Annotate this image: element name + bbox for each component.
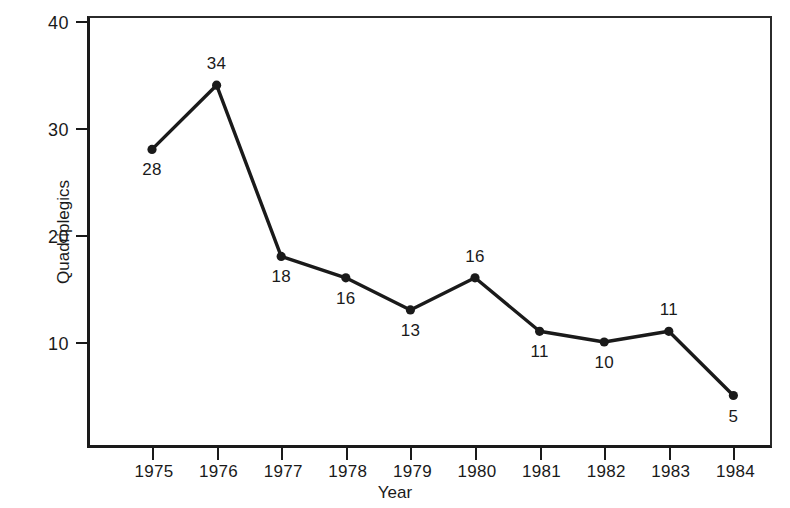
x-tick-1981: 1981 xyxy=(540,448,542,460)
point-value-label-1979: 13 xyxy=(401,321,421,341)
point-value-label-1977: 18 xyxy=(271,267,291,287)
x-tick-1980: 1980 xyxy=(475,448,477,460)
y-axis-title: Quadriplegics xyxy=(54,180,74,284)
x-tick-1978: 1978 xyxy=(346,448,348,460)
x-tick-1983: 1983 xyxy=(669,448,671,460)
x-tick-label: 1983 xyxy=(651,462,690,482)
y-tick-30: 30 xyxy=(76,128,87,130)
y-tick-label: 10 xyxy=(48,334,69,355)
y-tick-label: 40 xyxy=(48,13,69,34)
x-tick-label: 1976 xyxy=(199,462,238,482)
x-tick-label: 1978 xyxy=(328,462,367,482)
point-value-label-1975: 28 xyxy=(142,160,162,180)
x-tick-label: 1977 xyxy=(264,462,303,482)
x-tick-1977: 1977 xyxy=(281,448,283,460)
point-value-label-1978: 16 xyxy=(336,289,356,309)
x-tick-1976: 1976 xyxy=(217,448,219,460)
x-tick-label: 1982 xyxy=(587,462,626,482)
x-tick-label: 1975 xyxy=(134,462,173,482)
point-value-label-1982: 10 xyxy=(594,353,614,373)
point-value-label-1976: 34 xyxy=(207,54,227,74)
chart-figure: 10203040 1975197619771978197919801981198… xyxy=(0,0,790,508)
x-tick-label: 1979 xyxy=(393,462,432,482)
point-value-label-1981: 11 xyxy=(530,342,548,362)
x-tick-1984: 1984 xyxy=(733,448,735,460)
y-tick-20: 20 xyxy=(76,235,87,237)
x-tick-1979: 1979 xyxy=(410,448,412,460)
x-axis-title: Year xyxy=(0,483,790,503)
x-tick-label: 1980 xyxy=(457,462,496,482)
y-tick-10: 10 xyxy=(76,342,87,344)
point-value-label-1983: 11 xyxy=(660,300,678,320)
point-value-label-1984: 5 xyxy=(729,407,739,427)
point-value-label-1980: 16 xyxy=(465,247,485,267)
y-tick-40: 40 xyxy=(76,21,87,23)
x-tick-1975: 1975 xyxy=(152,448,154,460)
x-tick-1982: 1982 xyxy=(604,448,606,460)
x-tick-label: 1984 xyxy=(716,462,755,482)
y-tick-label: 30 xyxy=(48,120,69,141)
x-tick-label: 1981 xyxy=(522,462,561,482)
plot-area-frame xyxy=(87,16,772,448)
